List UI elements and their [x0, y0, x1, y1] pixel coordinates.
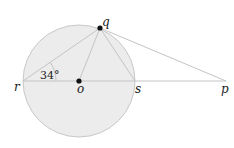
label-q: q — [102, 15, 110, 29]
geometry-diagram: 34° q r o s p — [0, 0, 234, 148]
angle-label: 34° — [40, 69, 60, 82]
label-s: s — [135, 82, 141, 96]
label-o: o — [77, 82, 84, 96]
label-p: p — [221, 82, 229, 96]
label-r: r — [14, 80, 21, 94]
